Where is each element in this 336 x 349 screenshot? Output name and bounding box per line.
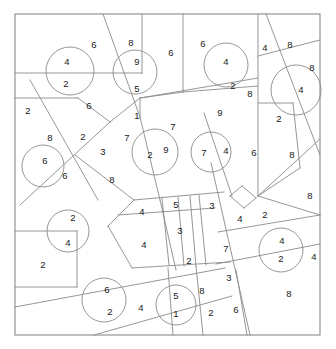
parcel-label: 8 [247, 88, 252, 99]
parcel-label: 1 [173, 308, 178, 319]
parcel-label: 2 [262, 209, 267, 220]
parcel-label: 1 [134, 110, 139, 121]
parcel-label: 4 [223, 56, 228, 67]
parcel-label: 4 [138, 302, 143, 313]
parcel-label: 8 [286, 288, 291, 299]
parcel-label: 2 [186, 255, 191, 266]
parcel-map-figure: 6849664488252846921728272974683668824532… [0, 0, 336, 349]
parcel-label: 8 [287, 39, 292, 50]
parcel-label: 4 [279, 235, 284, 246]
parcel-label: 5 [173, 199, 178, 210]
parcel-label: 7 [223, 243, 228, 254]
parcel-label: 5 [173, 290, 178, 301]
parcel-label: 4 [65, 237, 70, 248]
parcel-map-svg: 6849664488252846921728272974683668824532… [0, 0, 336, 349]
parcel-label: 6 [86, 100, 91, 111]
parcel-label: 6 [251, 147, 256, 158]
parcel-label: 8 [289, 149, 294, 160]
parcel-label: 4 [64, 56, 69, 67]
parcel-label: 4 [237, 213, 242, 224]
parcel-label: 2 [70, 212, 75, 223]
parcel-label: 7 [124, 132, 129, 143]
parcel-label: 6 [200, 38, 205, 49]
parcel-label: 2 [40, 259, 45, 270]
parcel-label: 2 [147, 149, 152, 160]
parcel-label: 7 [201, 147, 206, 158]
parcel-label: 2 [25, 105, 30, 116]
parcel-label: 2 [278, 253, 283, 264]
parcel-label: 3 [100, 146, 105, 157]
parcel-label: 9 [134, 56, 139, 67]
parcel-label: 4 [298, 84, 303, 95]
parcel-label: 2 [107, 306, 112, 317]
parcel-label: 7 [170, 121, 175, 132]
parcel-label: 3 [226, 272, 231, 283]
parcel-label: 2 [276, 113, 281, 124]
parcel-label: 9 [163, 144, 168, 155]
parcel-label: 4 [311, 251, 316, 262]
parcel-label: 6 [168, 47, 173, 58]
parcel-label: 3 [209, 200, 214, 211]
parcel-label: 4 [262, 42, 267, 53]
parcel-label: 8 [309, 62, 314, 73]
parcel-label: 6 [62, 170, 67, 181]
parcel-label: 4 [139, 206, 144, 217]
parcel-label: 8 [109, 174, 114, 185]
parcel-label: 2 [63, 78, 68, 89]
parcel-label: 9 [217, 107, 222, 118]
parcel-label: 4 [223, 145, 228, 156]
parcel-label: 2 [80, 131, 85, 142]
parcel-label: 8 [307, 190, 312, 201]
parcel-label: 8 [128, 37, 133, 48]
parcel-label: 5 [134, 83, 139, 94]
parcel-label: 4 [141, 239, 146, 250]
parcel-label: 8 [47, 132, 52, 143]
parcel-label: 6 [104, 284, 109, 295]
parcel-label: 2 [208, 307, 213, 318]
parcel-label: 6 [91, 39, 96, 50]
parcel-label: 2 [230, 80, 235, 91]
parcel-label: 8 [199, 285, 204, 296]
parcel-label: 3 [177, 225, 182, 236]
parcel-label: 6 [233, 304, 238, 315]
parcel-label: 6 [42, 155, 47, 166]
